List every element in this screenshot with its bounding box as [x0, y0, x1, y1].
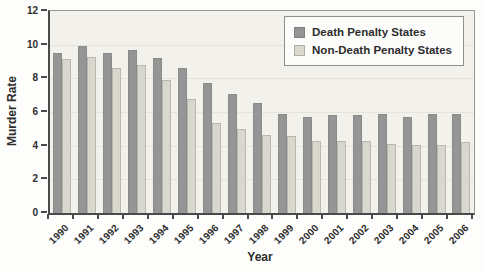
x-tick-mark [471, 214, 473, 219]
bar-group-1992 [100, 11, 125, 213]
x-tick-mark [371, 214, 373, 219]
y-tick-mark [41, 144, 47, 146]
x-axis-title: Year [48, 250, 472, 264]
bar-1992-non-death-penalty [112, 68, 121, 213]
bar-2002-non-death-penalty [362, 141, 371, 213]
x-tick-mark [421, 214, 423, 219]
y-tick-mark [41, 110, 47, 112]
x-tick-mark [321, 214, 323, 219]
bar-1992-death-penalty [103, 53, 112, 213]
bar-2005-non-death-penalty [437, 145, 446, 213]
y-tick-label: 12 [8, 5, 38, 16]
legend: Death Penalty StatesNon-Death Penalty St… [284, 16, 464, 66]
bar-1991-death-penalty [78, 46, 87, 213]
bar-group-1997 [225, 11, 250, 213]
bar-1999-death-penalty [278, 114, 287, 213]
bar-2003-death-penalty [378, 114, 387, 213]
x-tick-mark [47, 214, 49, 219]
x-tick-mark [97, 214, 99, 219]
bar-1996-death-penalty [203, 83, 212, 213]
bar-2006-death-penalty [452, 114, 461, 213]
y-tick-label: 6 [8, 106, 38, 117]
x-tick-mark [147, 214, 149, 219]
x-tick-mark [247, 214, 249, 219]
legend-label: Death Penalty States [312, 26, 426, 38]
bar-1997-non-death-penalty [237, 129, 246, 213]
bar-2004-non-death-penalty [412, 145, 421, 213]
legend-item: Death Penalty States [294, 23, 452, 41]
legend-swatch-icon [294, 27, 305, 38]
bar-1993-death-penalty [128, 50, 137, 213]
bar-2000-death-penalty [303, 117, 312, 213]
x-tick-mark [172, 214, 174, 219]
bar-1998-non-death-penalty [262, 135, 271, 213]
bar-2002-death-penalty [353, 115, 362, 213]
y-tick-mark [41, 43, 47, 45]
x-tick-mark [396, 214, 398, 219]
bar-1993-non-death-penalty [137, 65, 146, 213]
x-tick-mark [72, 214, 74, 219]
x-tick-mark [296, 214, 298, 219]
bar-2001-non-death-penalty [337, 141, 346, 213]
y-tick-mark [41, 211, 47, 213]
bar-1995-death-penalty [178, 68, 187, 213]
bar-group-1990 [50, 11, 75, 213]
bar-2003-non-death-penalty [387, 144, 396, 213]
bar-2006-non-death-penalty [461, 142, 470, 213]
x-tick-mark [346, 214, 348, 219]
x-tick-mark [271, 214, 273, 219]
bar-1995-non-death-penalty [187, 99, 196, 213]
legend-item: Non-Death Penalty States [294, 41, 452, 59]
y-tick-label: 4 [8, 139, 38, 150]
legend-swatch-icon [294, 45, 305, 56]
bar-group-1998 [250, 11, 275, 213]
bar-1996-non-death-penalty [212, 123, 221, 213]
y-tick-mark [41, 9, 47, 11]
bar-2004-death-penalty [403, 117, 412, 213]
y-tick-label: 8 [8, 72, 38, 83]
x-tick-mark [222, 214, 224, 219]
bar-1994-non-death-penalty [162, 80, 171, 213]
bar-group-1993 [125, 11, 150, 213]
bar-2005-death-penalty [428, 114, 437, 213]
y-tick-label: 2 [8, 173, 38, 184]
bar-2001-death-penalty [328, 115, 337, 213]
bar-group-1996 [200, 11, 225, 213]
x-tick-mark [446, 214, 448, 219]
bar-group-1994 [150, 11, 175, 213]
bar-group-1991 [75, 11, 100, 213]
x-tick-mark [197, 214, 199, 219]
bar-1991-non-death-penalty [87, 57, 96, 213]
bar-1998-death-penalty [253, 103, 262, 213]
murder-rate-bar-chart: Murder Rate 024681012 199019911992199319… [0, 0, 484, 273]
bar-1997-death-penalty [228, 94, 237, 213]
bar-1990-death-penalty [53, 53, 62, 213]
bar-2000-non-death-penalty [312, 141, 321, 213]
y-tick-mark [41, 177, 47, 179]
bar-group-1995 [175, 11, 200, 213]
y-tick-label: 10 [8, 38, 38, 49]
bar-1990-non-death-penalty [62, 59, 71, 213]
y-tick-mark [41, 76, 47, 78]
bar-1999-non-death-penalty [287, 136, 296, 213]
y-tick-label: 0 [8, 207, 38, 218]
x-tick-mark [122, 214, 124, 219]
legend-label: Non-Death Penalty States [312, 44, 452, 56]
bar-1994-death-penalty [153, 58, 162, 213]
